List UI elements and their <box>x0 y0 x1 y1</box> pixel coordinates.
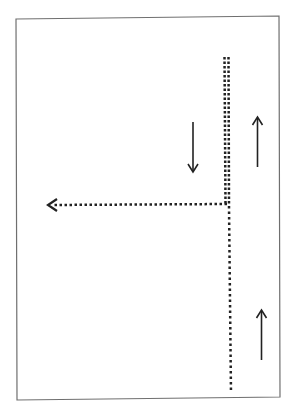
diagram-canvas <box>0 0 297 412</box>
page-border <box>16 16 280 400</box>
